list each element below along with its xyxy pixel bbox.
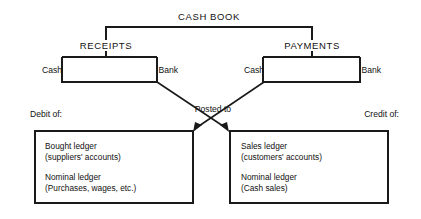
debit-box-line-3: Nominal ledger [45,172,136,183]
node-payments-bank: Bank [361,66,381,75]
node-payments-cash: Cash [244,66,264,75]
node-receipts: RECEIPTS [80,41,132,51]
bracket-cashbook [106,27,312,40]
credit-box-line-4: (Cash sales) [241,183,322,194]
credit-box-spacer [241,162,322,172]
credit-box-line-1: Sales ledger [241,141,322,152]
debit-box-spacer [45,162,136,172]
credit-box-line-2: (customers' accounts) [241,152,322,163]
debit-box-line-2: (suppliers' accounts) [45,152,136,163]
arrowhead-to-debit-box [193,122,202,132]
credit-box-line-3: Nominal ledger [241,172,322,183]
arrowhead-to-credit-box [220,122,229,132]
diagram-title: CASH BOOK [178,12,240,22]
node-payments: PAYMENTS [284,41,340,51]
bracket-payments [263,57,360,82]
credit-ledger-box: Sales ledger (customers' accounts) Nomin… [241,141,322,193]
debit-box-line-1: Bought ledger [45,141,136,152]
debit-ledger-box: Bought ledger (suppliers' accounts) Nomi… [45,141,136,193]
bracket-receipts [62,57,157,82]
credit-of-label: Credit of: [364,110,399,119]
posted-to-label: Posted to [195,105,231,114]
diagram-canvas: CASH BOOK RECEIPTS PAYMENTS Cash Bank Ca… [0,0,421,219]
debit-of-label: Debit of: [30,110,62,119]
node-receipts-cash: Cash [42,66,62,75]
node-receipts-bank: Bank [158,66,178,75]
debit-box-line-4: (Purchases, wages, etc.) [45,183,136,194]
